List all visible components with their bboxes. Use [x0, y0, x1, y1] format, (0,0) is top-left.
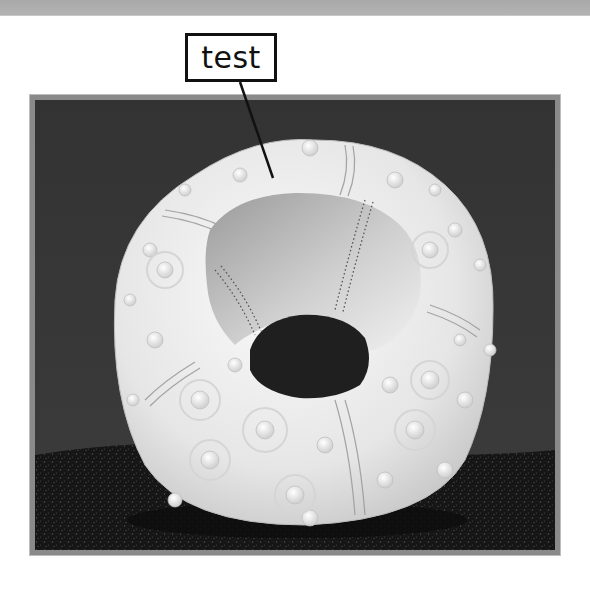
photo-frame [30, 95, 560, 555]
sea-urchin-photo [35, 100, 555, 550]
annotation-label: test [185, 33, 277, 82]
annotation-label-text: test [201, 40, 261, 75]
top-strip [0, 0, 590, 16]
